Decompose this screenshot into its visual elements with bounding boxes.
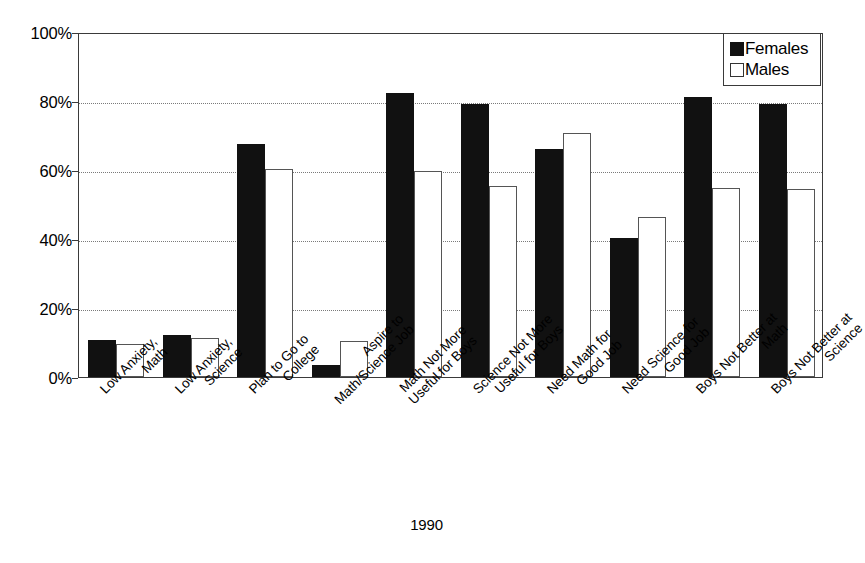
y-tick-label: 100% <box>2 25 72 42</box>
filled-square-icon <box>730 42 744 56</box>
y-axis: 0%20%40%60%80%100% <box>0 33 72 378</box>
legend-label-males: Males <box>745 61 789 78</box>
plot-area <box>78 33 823 378</box>
open-square-icon <box>730 63 744 77</box>
bar-group <box>303 34 378 377</box>
legend-item-females: Females <box>730 38 815 59</box>
legend-label-females: Females <box>745 40 808 57</box>
y-tick-label: 80% <box>2 94 72 111</box>
bar-group <box>79 34 154 377</box>
bar-group <box>601 34 676 377</box>
x-axis-category-labels: Low Anxiety,MathLow Anxiety,SciencePlan … <box>0 378 853 508</box>
chart-legend: Females Males <box>723 33 821 86</box>
y-tick-label: 40% <box>2 232 72 249</box>
y-tick-label: 60% <box>2 163 72 180</box>
x-axis-title: 1990 <box>0 516 853 533</box>
bar-males <box>563 133 591 377</box>
bar-group <box>228 34 303 377</box>
bar-females <box>237 144 265 377</box>
bar-group <box>154 34 229 377</box>
legend-item-males: Males <box>730 59 815 80</box>
y-tick-label: 20% <box>2 301 72 318</box>
